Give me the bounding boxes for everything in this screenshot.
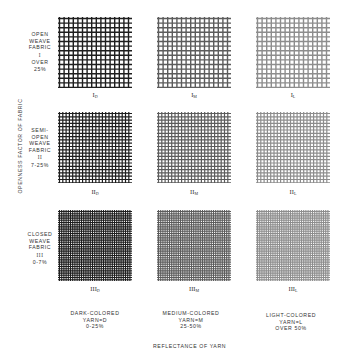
row-label-semi-open-weave: SEMI- OPEN WEAVE FABRIC II 7-25% (18, 127, 62, 169)
swatch-label-II-M: IIM (179, 188, 209, 196)
column-label-medium: MEDIUM-COLORED YARN=M 25-50% (146, 310, 236, 330)
swatch-label-III-L: IIIL (278, 285, 308, 293)
fabric-swatch-I-M (157, 17, 231, 88)
row-label-open-weave: OPEN WEAVE FABRIC I OVER 25% (18, 31, 62, 73)
swatch-label-III-D: IIID (80, 285, 110, 293)
swatch-label-II-L: IIL (278, 188, 308, 196)
fabric-swatch-II-D (58, 112, 132, 183)
row-label-closed-weave: CLOSED WEAVE FABRIC III 0-7% (18, 231, 62, 266)
fabric-swatch-III-D (58, 210, 132, 281)
swatch-label-I-L: IL (278, 91, 308, 99)
fabric-swatch-III-L (256, 210, 330, 281)
fabric-swatch-I-L (256, 17, 330, 88)
fabric-swatch-II-L (256, 112, 330, 183)
x-axis-label: REFLECTANCE OF YARN (153, 343, 226, 349)
column-label-light: LIGHT-COLORED YARN=L OVER 50% (246, 312, 336, 332)
fabric-swatch-III-M (157, 210, 231, 281)
swatch-label-II-D: IID (80, 188, 110, 196)
swatch-label-I-D: ID (80, 91, 110, 99)
fabric-swatch-II-M (157, 112, 231, 183)
swatch-label-III-M: IIIM (179, 285, 209, 293)
swatch-label-I-M: IM (179, 91, 209, 99)
column-label-dark: DARK-COLORED YARN=D 0-25% (50, 310, 140, 330)
fabric-swatch-I-D (58, 17, 132, 88)
